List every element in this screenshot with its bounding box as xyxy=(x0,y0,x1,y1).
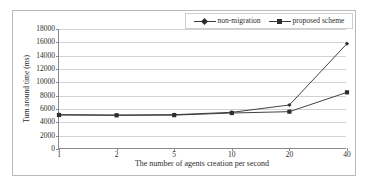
diamond-marker-icon xyxy=(201,17,208,24)
square-marker-icon xyxy=(345,90,349,94)
y-tick-label: 2000 xyxy=(40,132,55,140)
x-tick-label: 40 xyxy=(343,151,351,159)
legend-line-sample xyxy=(269,18,291,25)
y-tick-label: 18000 xyxy=(36,25,55,33)
square-marker-icon xyxy=(115,113,119,117)
legend-label-proposed-scheme: proposed scheme xyxy=(293,17,345,25)
y-axis-title: Turn around time (ms) xyxy=(22,29,32,149)
x-axis-title: The number of agents creation per second xyxy=(58,159,346,169)
square-marker-icon xyxy=(287,110,291,114)
y-tick-label: 0 xyxy=(51,145,55,153)
x-tick-label: 10 xyxy=(228,151,236,159)
x-tick-mark xyxy=(347,148,348,151)
series-line-non-migration xyxy=(59,44,347,115)
square-marker-icon xyxy=(277,19,282,24)
series-plot xyxy=(59,29,347,149)
legend-label-non-migration: non-migration xyxy=(218,17,261,25)
legend-entry-non-migration: non-migration xyxy=(194,17,261,25)
legend-line-sample xyxy=(194,18,216,25)
x-tick-label: 2 xyxy=(115,151,119,159)
legend-entry-proposed-scheme: proposed scheme xyxy=(269,17,345,25)
series-line-proposed-scheme xyxy=(59,92,347,115)
chart-frame: non-migration proposed scheme Turn aroun… xyxy=(12,10,356,176)
chart-legend: non-migration proposed scheme xyxy=(185,13,353,29)
y-tick-label: 16000 xyxy=(36,38,55,46)
square-marker-icon xyxy=(172,113,176,117)
x-tick-label: 20 xyxy=(286,151,294,159)
x-tick-label: 5 xyxy=(172,151,176,159)
y-tick-label: 14000 xyxy=(36,52,55,60)
y-tick-label: 8000 xyxy=(40,92,55,100)
y-tick-label: 12000 xyxy=(36,65,55,73)
plot-area: 0200040006000800010000120001400016000180… xyxy=(58,29,346,149)
x-tick-label: 1 xyxy=(57,151,61,159)
square-marker-icon xyxy=(230,111,234,115)
y-tick-label: 6000 xyxy=(40,105,55,113)
square-marker-icon xyxy=(57,113,61,117)
y-tick-label: 10000 xyxy=(36,78,55,86)
y-tick-label: 4000 xyxy=(40,118,55,126)
